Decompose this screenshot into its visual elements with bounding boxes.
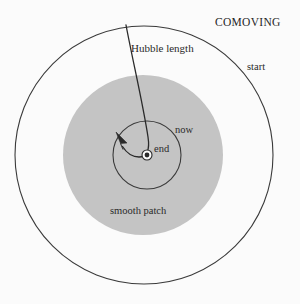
comoving-diagram-figure: COMOVING start Hubble length now end smo…	[0, 0, 300, 304]
smooth-patch-label: smooth patch	[110, 206, 166, 217]
hubble-length-label: Hubble length	[131, 43, 194, 54]
now-circle-label: now	[175, 125, 193, 136]
diagram-title: COMOVING	[215, 17, 281, 29]
end-point-dot	[145, 153, 150, 158]
end-point-label: end	[154, 144, 169, 155]
start-circle-label: start	[247, 62, 265, 73]
